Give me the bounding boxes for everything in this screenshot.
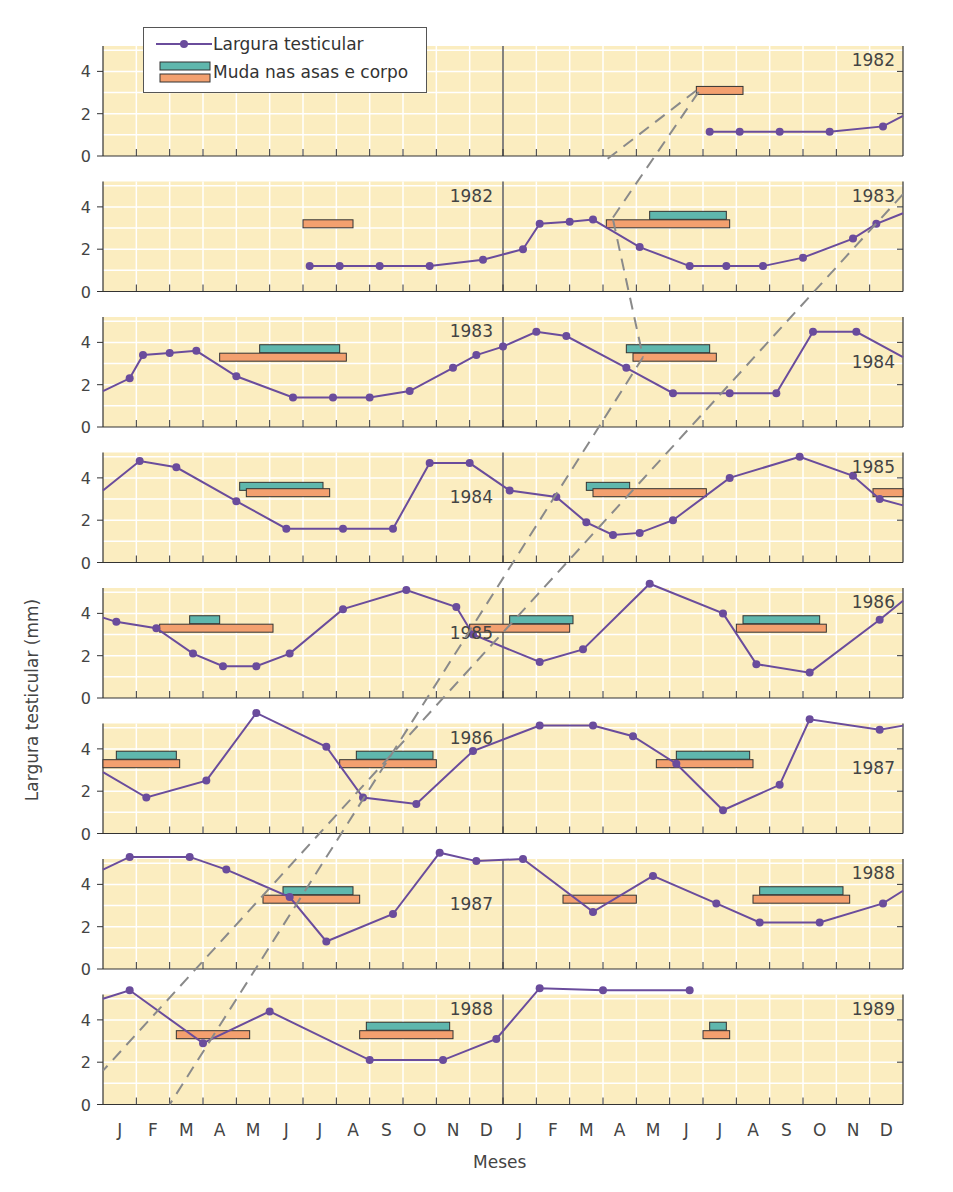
x-tick-label: J <box>683 1120 689 1140</box>
x-tick-label: S <box>381 1120 392 1140</box>
svg-text:0: 0 <box>81 960 91 979</box>
x-tick-label: J <box>283 1120 289 1140</box>
svg-text:1985: 1985 <box>450 623 493 643</box>
legend-label-molt: Muda nas asas e corpo <box>213 62 408 82</box>
svg-text:0: 0 <box>81 1096 91 1115</box>
svg-text:1986: 1986 <box>450 728 493 748</box>
svg-text:2: 2 <box>81 376 91 395</box>
panel-6: 02419871988 <box>81 849 903 979</box>
svg-text:1986: 1986 <box>852 592 895 612</box>
svg-text:2: 2 <box>81 511 91 530</box>
svg-text:2: 2 <box>81 105 91 124</box>
x-tick-label: J <box>116 1120 122 1140</box>
panel-1: 02419821983 <box>81 182 903 302</box>
panel-7: 02419881989 <box>81 984 903 1114</box>
svg-text:2: 2 <box>81 240 91 259</box>
y-axis-label: Largura testicular (mm) <box>22 599 42 801</box>
x-tick-label: D <box>880 1120 893 1140</box>
svg-text:4: 4 <box>81 469 91 488</box>
svg-text:4: 4 <box>81 62 91 81</box>
svg-text:0: 0 <box>81 418 91 437</box>
x-tick-label: N <box>447 1120 460 1140</box>
svg-text:1983: 1983 <box>852 186 895 206</box>
x-axis-label: Meses <box>473 1152 526 1172</box>
svg-text:4: 4 <box>81 1011 91 1030</box>
svg-text:1982: 1982 <box>450 186 493 206</box>
x-tick-label: A <box>614 1120 626 1140</box>
svg-text:2: 2 <box>81 782 91 801</box>
x-tick-label: D <box>480 1120 493 1140</box>
svg-text:4: 4 <box>81 604 91 623</box>
legend: Largura testicular Muda nas asas e corpo <box>143 27 427 93</box>
svg-text:2: 2 <box>81 918 91 937</box>
svg-text:1982: 1982 <box>852 50 895 70</box>
x-tick-label: S <box>781 1120 792 1140</box>
x-tick-label: J <box>716 1120 722 1140</box>
svg-text:2: 2 <box>81 1053 91 1072</box>
svg-text:4: 4 <box>81 198 91 217</box>
svg-text:1988: 1988 <box>852 863 895 883</box>
svg-text:1984: 1984 <box>852 352 895 372</box>
x-tick-label: M <box>246 1120 261 1140</box>
legend-label-testis: Largura testicular <box>213 34 364 54</box>
x-tick-label: M <box>179 1120 194 1140</box>
panel-5: 02419861987 <box>81 709 903 844</box>
svg-text:1988: 1988 <box>450 999 493 1019</box>
x-tick-label: N <box>847 1120 860 1140</box>
svg-text:0: 0 <box>81 554 91 573</box>
svg-text:1987: 1987 <box>852 758 895 778</box>
x-tick-label: O <box>813 1120 826 1140</box>
chart-canvas: 0241982024198219830241983198402419841985… <box>0 0 953 1192</box>
svg-text:4: 4 <box>81 875 91 894</box>
svg-text:1984: 1984 <box>450 487 493 507</box>
svg-text:1989: 1989 <box>852 999 895 1019</box>
x-tick-label: A <box>214 1120 226 1140</box>
x-tick-label: J <box>516 1120 522 1140</box>
legend-item-molt: Muda nas asas e corpo <box>144 60 426 90</box>
svg-text:0: 0 <box>81 147 91 166</box>
svg-text:1987: 1987 <box>450 894 493 914</box>
svg-text:1985: 1985 <box>852 457 895 477</box>
x-tick-label: F <box>548 1120 558 1140</box>
x-tick-label: O <box>413 1120 426 1140</box>
svg-text:0: 0 <box>81 825 91 844</box>
svg-text:2: 2 <box>81 647 91 666</box>
svg-text:4: 4 <box>81 333 91 352</box>
x-tick-label: M <box>579 1120 594 1140</box>
x-tick-label: M <box>646 1120 661 1140</box>
x-tick-label: A <box>747 1120 759 1140</box>
x-tick-label: A <box>347 1120 359 1140</box>
legend-item-testis: Largura testicular <box>144 34 426 54</box>
x-tick-label: J <box>316 1120 322 1140</box>
svg-text:0: 0 <box>81 283 91 302</box>
svg-text:4: 4 <box>81 740 91 759</box>
svg-text:1983: 1983 <box>450 321 493 341</box>
panel-3: 02419841985 <box>81 453 903 573</box>
x-tick-label: F <box>148 1120 158 1140</box>
line-marker-icon <box>154 34 214 54</box>
svg-text:0: 0 <box>81 689 91 708</box>
panel-2: 02419831984 <box>81 317 903 437</box>
molt-bars-icon <box>154 60 214 90</box>
